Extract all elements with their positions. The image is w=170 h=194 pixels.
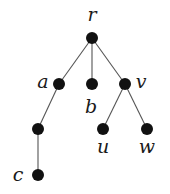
node-r <box>86 32 98 44</box>
node-v <box>119 78 131 90</box>
label-a: a <box>37 70 48 92</box>
node-b <box>86 78 98 90</box>
label-c: c <box>13 163 24 185</box>
node-a <box>53 78 65 90</box>
edge-r-a <box>59 38 92 84</box>
tree-diagram: r a b v c u w <box>0 0 170 194</box>
label-b: b <box>85 95 97 117</box>
label-w: w <box>139 135 155 157</box>
edge-v-u <box>103 84 125 129</box>
edge-r-v <box>92 38 125 84</box>
node-u <box>97 123 109 135</box>
label-r: r <box>87 3 98 25</box>
node-c <box>32 169 44 181</box>
node-a1 <box>32 123 44 135</box>
label-v: v <box>136 70 147 92</box>
label-u: u <box>97 135 109 157</box>
node-w <box>141 123 153 135</box>
